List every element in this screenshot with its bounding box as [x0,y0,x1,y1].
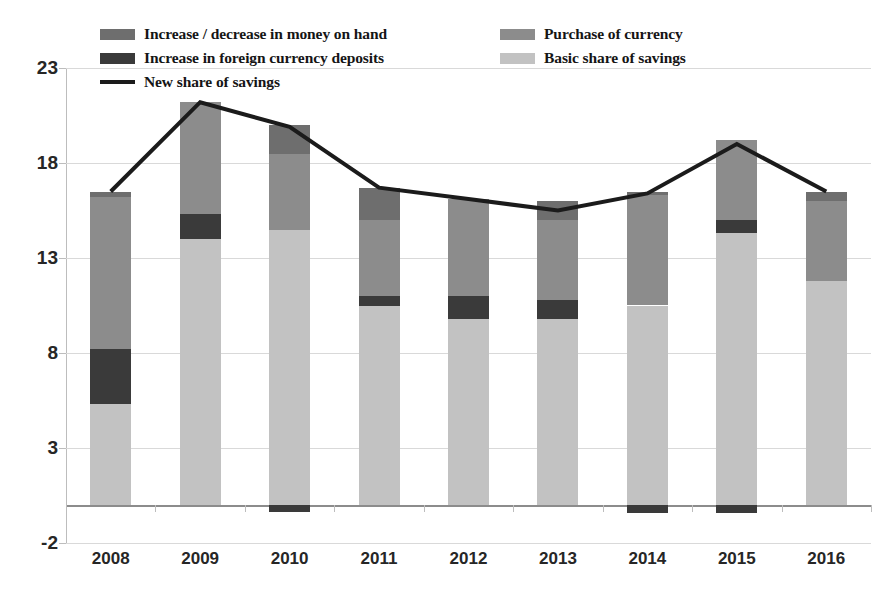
legend-swatch-fx_deposits [100,53,135,64]
chart-figure: Increase / decrease in money on handIncr… [0,0,893,595]
legend-item-fx_deposits[interactable]: Increase in foreign currency deposits [100,46,387,70]
y-axis-label-23: 23 [37,57,58,79]
x-axis-label-2010: 2010 [271,549,309,569]
x-axis-label-2008: 2008 [92,549,130,569]
y-tick-8 [59,353,66,354]
y-axis-label-8: 8 [47,342,58,364]
y-tick--2 [59,543,66,544]
legend-label-basic_share: Basic share of savings [544,49,686,67]
legend-swatch-money_on_hand [100,29,135,40]
x-axis-label-2011: 2011 [361,549,398,569]
x-axis-label-2015: 2015 [718,549,756,569]
y-tick-23 [59,68,66,69]
legend-item-money_on_hand[interactable]: Increase / decrease in money on hand [100,22,387,46]
y-axis-labels: -238131823 [0,68,58,543]
legend-column-right: Purchase of currencyBasic share of savin… [500,22,686,70]
y-tick-18 [59,163,66,164]
y-axis-label-13: 13 [37,247,58,269]
legend-label-money_on_hand: Increase / decrease in money on hand [144,25,387,43]
x-axis-label-2012: 2012 [450,549,488,569]
line-series-new_share [66,68,871,543]
y-axis-label--2: -2 [41,532,58,554]
x-axis-label-2009: 2009 [181,549,219,569]
legend-swatch-purchase_currency [500,29,535,40]
legend-item-basic_share[interactable]: Basic share of savings [500,46,686,70]
x-axis-label-2013: 2013 [539,549,577,569]
y-axis-label-18: 18 [37,152,58,174]
x-axis-labels: 200820092010201120122013201420152016 [66,549,871,581]
y-tick-3 [59,448,66,449]
gridline--2 [66,543,871,544]
legend-label-fx_deposits: Increase in foreign currency deposits [144,49,384,67]
plot-area [66,68,871,543]
legend-swatch-basic_share [500,53,535,64]
legend-item-purchase_currency[interactable]: Purchase of currency [500,22,686,46]
y-axis-label-3: 3 [47,437,58,459]
y-tick-13 [59,258,66,259]
x-minor-tick [871,505,872,512]
x-axis-label-2014: 2014 [628,549,666,569]
x-axis-label-2016: 2016 [807,549,845,569]
legend-label-purchase_currency: Purchase of currency [544,25,683,43]
